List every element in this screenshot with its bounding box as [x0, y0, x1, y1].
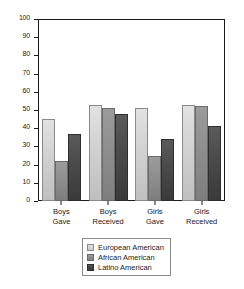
y-axis-tick-label: 40 — [23, 123, 30, 131]
x-axis-tick-label-line: Girls — [146, 207, 164, 217]
y-axis-tick-label: 20 — [23, 160, 30, 168]
x-axis-tick-mark — [108, 201, 109, 205]
x-axis-tick-label-line: Girls — [186, 207, 217, 217]
y-axis-tick-mark — [34, 74, 38, 75]
x-axis-tick-label: GirlsReceived — [186, 207, 217, 226]
y-axis-tick-label: 80 — [23, 50, 30, 58]
y-axis-tick-mark — [34, 183, 38, 184]
y-axis-tick-mark — [34, 128, 38, 129]
y-axis-tick-mark — [34, 146, 38, 147]
legend-swatch-icon — [87, 264, 94, 271]
y-axis-tick-label: 100 — [19, 14, 30, 22]
y-axis-tick-label: 90 — [23, 32, 30, 40]
y-axis-tick-label: 70 — [23, 69, 30, 77]
x-axis-tick-mark — [61, 201, 62, 205]
bar-chart: 1009080706050403020100 BoysGaveBoysRecei… — [0, 0, 244, 289]
legend-item: European American — [87, 242, 164, 252]
y-axis-tick-mark — [34, 165, 38, 166]
y-axis-tick-label: 60 — [23, 87, 30, 95]
y-axis-tick-label: 30 — [23, 141, 30, 149]
legend-item-label: European American — [98, 243, 164, 252]
y-axis-tick-mark — [34, 19, 38, 20]
plot-frame — [38, 19, 225, 201]
legend-item-label: African American — [98, 253, 155, 262]
x-axis-tick-label: BoysReceived — [92, 207, 123, 226]
x-axis: BoysGaveBoysReceivedGirlsGaveGirlsReceiv… — [38, 201, 225, 235]
x-axis-tick-label-line: Gave — [146, 217, 164, 227]
x-axis-tick-label: BoysGave — [52, 207, 70, 226]
x-axis-tick-label-line: Received — [92, 217, 123, 227]
y-axis-tick-mark — [34, 110, 38, 111]
x-axis-tick-mark — [154, 201, 155, 205]
x-axis-tick-label: GirlsGave — [146, 207, 164, 226]
legend-item-label: Latino American — [98, 263, 152, 272]
legend-swatch-icon — [87, 244, 94, 251]
y-axis-tick-label: 10 — [23, 178, 30, 186]
x-axis-tick-label-line: Boys — [52, 207, 70, 217]
y-axis-tick-mark — [34, 37, 38, 38]
legend-swatch-icon — [87, 254, 94, 261]
y-axis-tick-label: 50 — [23, 105, 30, 113]
x-axis-tick-label-line: Gave — [52, 217, 70, 227]
x-axis-tick-label-line: Boys — [92, 207, 123, 217]
x-axis-tick-label-line: Received — [186, 217, 217, 227]
y-axis-tick-mark — [34, 55, 38, 56]
y-axis-tick-mark — [34, 92, 38, 93]
y-axis: 1009080706050403020100 — [0, 19, 38, 201]
x-axis-tick-mark — [201, 201, 202, 205]
legend-item: African American — [87, 252, 164, 262]
y-axis-tick-label: 0 — [26, 196, 30, 204]
legend-item: Latino American — [87, 262, 164, 272]
chart-legend: European AmericanAfrican AmericanLatino … — [82, 238, 171, 276]
